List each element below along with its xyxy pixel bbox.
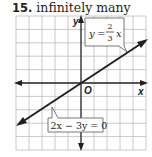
line-lower-arrow-icon: [16, 117, 27, 126]
y-axis-label: y: [72, 16, 79, 27]
coordinate-graph: y x O y = 2 3 x 2x − 3y = 0: [0, 0, 152, 157]
eq1-variable: x: [116, 28, 122, 39]
equation-callout-slope-intercept: y = 2 3 x: [85, 18, 127, 52]
x-axis-left-arrow-icon: [14, 80, 22, 86]
eq1-lhs: y: [88, 28, 95, 39]
equation-callout-standard-form: 2x − 3y = 0: [48, 107, 107, 132]
eq1-equals: =: [97, 28, 105, 39]
eq2-text: 2x − 3y = 0: [51, 120, 108, 131]
origin-label: O: [84, 85, 92, 96]
eq1-numerator: 2: [108, 22, 113, 31]
x-axis-label: x: [137, 86, 144, 97]
eq1-denominator: 3: [108, 34, 113, 43]
